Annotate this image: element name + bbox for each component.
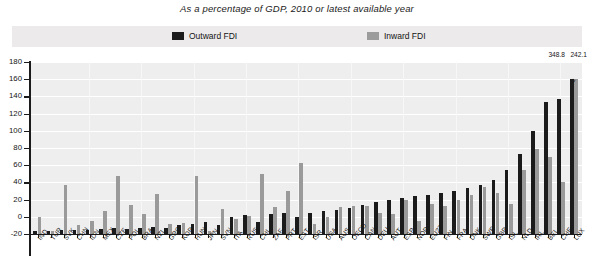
bar-group [295,62,303,234]
y-tick-mark [24,165,29,166]
bar-inward-fdi [496,193,500,234]
bar-group [47,62,55,234]
bar-inward-fdi [286,191,290,234]
bar-inward-fdi [574,79,578,234]
bar-group [230,62,238,234]
chart-title: As a percentage of GDP, 2010 or latest a… [0,3,594,14]
legend-item-outward-fdi: Outward FDI [172,31,237,41]
y-tick-mark [24,96,29,97]
bar-group [322,62,330,234]
bar-group [282,62,290,234]
bar-group [557,62,565,234]
y-tick-mark [24,182,29,183]
bar-outward-fdi [518,154,522,234]
y-tick-label: 80 [2,144,22,152]
bar-group [112,62,120,234]
y-tick-mark [24,148,29,149]
bar-group [256,62,264,234]
bar-inward-fdi [483,187,487,234]
bar-group [191,62,199,234]
bar-group [505,62,513,234]
bar-inward-fdi [535,149,539,234]
y-tick-label: 160 [2,75,22,83]
bar-outward-fdi [544,102,548,234]
bar-group [269,62,277,234]
bar-group [348,62,356,234]
lux-inward-value-label: 242.1 [570,51,587,58]
bar-group [439,62,447,234]
bar-group [99,62,107,234]
bar-group [243,62,251,234]
bar-group [217,62,225,234]
legend-label-inward: Inward FDI [384,31,426,41]
bar-group [426,62,434,234]
bar-series-container [31,62,581,234]
bar-group [308,62,316,234]
bar-group [479,62,487,234]
y-tick-label: 20 [2,196,22,204]
y-tick-label: 0 [2,213,22,221]
y-tick-label: 140 [2,92,22,100]
bar-group [544,62,552,234]
y-tick-label: 60 [2,161,22,169]
y-tick-mark [24,131,29,132]
y-tick-label: 180 [2,58,22,66]
y-tick-mark [24,217,29,218]
bar-inward-fdi [522,170,526,234]
bar-outward-fdi [531,131,535,234]
x-axis-category-labels: INDTURSVKCHNIDNMEXCZEPOLBRANZLGRCKORHUNJ… [31,237,591,278]
lux-outward-value-label: 348.8 [548,51,565,58]
bar-outward-fdi [243,215,247,234]
fdi-chart: As a percentage of GDP, 2010 or latest a… [0,0,594,278]
bar-inward-fdi [260,174,264,234]
legend-swatch-outward-icon [172,32,184,40]
bar-group [86,62,94,234]
bar-inward-fdi [470,195,474,234]
bar-group [413,62,421,234]
legend-swatch-inward-icon [367,32,379,40]
bar-group [374,62,382,234]
bar-group [531,62,539,234]
y-axis-labels: -20020406080100120140160180 [0,0,22,278]
bar-group [570,62,578,234]
y-tick-mark [24,114,29,115]
bar-group [518,62,526,234]
bar-group [60,62,68,234]
bar-group [361,62,369,234]
bar-group [33,62,41,234]
y-tick-mark [24,62,29,63]
bar-group [177,62,185,234]
y-tick-mark [24,200,29,201]
bar-inward-fdi [116,176,120,234]
bar-group [452,62,460,234]
y-tick-label: 100 [2,127,22,135]
bar-group [335,62,343,234]
chart-legend: Outward FDI Inward FDI [12,26,582,47]
bar-group [73,62,81,234]
bar-group [387,62,395,234]
bar-group [204,62,212,234]
y-tick-label: 120 [2,110,22,118]
bar-group [125,62,133,234]
bar-inward-fdi [64,185,68,234]
bar-outward-fdi [570,79,574,234]
bar-outward-fdi [505,170,509,235]
bar-inward-fdi [195,176,199,234]
bar-group [164,62,172,234]
y-tick-label: 40 [2,178,22,186]
bar-group [492,62,500,234]
legend-label-outward: Outward FDI [189,31,237,41]
bar-group [151,62,159,234]
bar-outward-fdi [452,191,456,234]
y-tick-label: -20 [2,230,22,238]
bar-group [466,62,474,234]
bar-group [400,62,408,234]
y-tick-mark [24,79,29,80]
bar-inward-fdi [548,157,552,234]
legend-item-inward-fdi: Inward FDI [367,31,426,41]
bar-inward-fdi [561,182,565,234]
y-tick-mark [24,234,29,235]
bar-outward-fdi [479,185,483,234]
bar-outward-fdi [557,99,561,234]
bar-inward-fdi [299,163,303,234]
